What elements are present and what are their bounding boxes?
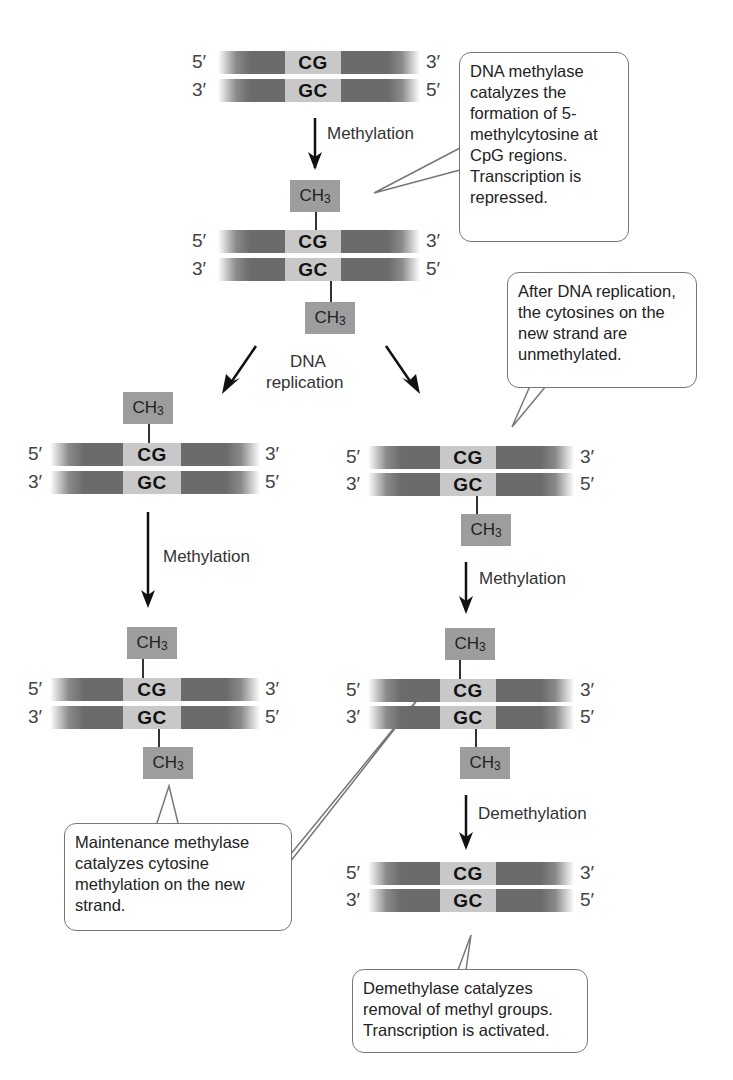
strand-end-label: 3′ [28, 471, 42, 493]
bond-line [158, 729, 160, 748]
callout-after-replication: After DNA replication, the cytosines on … [507, 272, 697, 388]
strand-end-label: 5′ [265, 706, 279, 728]
bond-line [142, 659, 144, 678]
strand-end-label: 5′ [346, 862, 360, 884]
strand-end-label: 5′ [192, 230, 206, 252]
base-pair-gc: GC [440, 706, 496, 729]
strand-end-label: 3′ [265, 443, 279, 465]
strand-end-label: 5′ [28, 443, 42, 465]
strand-end-label: 5′ [580, 473, 594, 495]
strand-end-label: 3′ [426, 230, 440, 252]
strand-end-label: 3′ [426, 51, 440, 73]
methylation-label-right: Methylation [479, 569, 566, 589]
callout-demethylase: Demethylase catalyzes removal of methyl … [352, 969, 588, 1053]
bond-line [459, 660, 461, 679]
strand-end-label: 3′ [28, 706, 42, 728]
base-pair-gc: GC [440, 889, 496, 912]
methyl-group-bottom: CH3 [143, 747, 193, 779]
strand-end-label: 3′ [580, 862, 594, 884]
strand-end-label: 5′ [346, 679, 360, 701]
base-pair-cg: CG [123, 443, 181, 466]
methyl-group-top: CH3 [290, 180, 340, 212]
methyl-group-top: CH3 [123, 392, 173, 424]
base-pair-gc: GC [285, 79, 341, 102]
strand-end-label: 3′ [580, 679, 594, 701]
callout-dna-methylase: DNA methylase catalyzes the formation of… [459, 52, 629, 242]
methyl-group-bottom: CH3 [461, 514, 511, 546]
dna-replication-label-1: DNA [290, 352, 326, 372]
dna-replication-label-2: replication [266, 373, 344, 393]
strand-end-label: 5′ [580, 889, 594, 911]
strand-end-label: 5′ [580, 706, 594, 728]
strand-end-label: 5′ [346, 446, 360, 468]
methyl-group-top: CH3 [445, 628, 495, 660]
bond-line [475, 729, 477, 747]
demethylation-label: Demethylation [478, 804, 587, 824]
base-pair-cg: CG [440, 679, 496, 702]
strand-end-label: 5′ [426, 79, 440, 101]
methyl-group-bottom: CH3 [460, 747, 510, 779]
strand-end-label: 3′ [346, 889, 360, 911]
bond-line [315, 212, 317, 230]
strand-end-label: 3′ [192, 258, 206, 280]
strand-end-label: 5′ [192, 51, 206, 73]
strand-end-label: 3′ [346, 473, 360, 495]
strand-end-label: 3′ [346, 706, 360, 728]
base-pair-cg: CG [285, 230, 341, 253]
callout-maintenance-methylase: Maintenance methylase catalyzes cytosine… [64, 823, 292, 931]
methyl-group-top: CH3 [127, 627, 177, 659]
base-pair-gc: GC [123, 471, 181, 494]
strand-end-label: 5′ [265, 471, 279, 493]
bond-line [148, 424, 150, 443]
base-pair-gc: GC [440, 473, 496, 496]
strand-end-label: 3′ [580, 446, 594, 468]
base-pair-cg: CG [440, 446, 496, 469]
strand-end-label: 3′ [265, 678, 279, 700]
bond-line [476, 496, 478, 514]
methylation-label-left: Methylation [163, 547, 250, 567]
base-pair-gc: GC [123, 706, 181, 729]
bond-line [330, 281, 332, 302]
strand-end-label: 5′ [28, 678, 42, 700]
methyl-group-bottom: CH3 [305, 302, 355, 334]
methylation-label: Methylation [327, 124, 414, 144]
base-pair-gc: GC [285, 258, 341, 281]
base-pair-cg: CG [440, 862, 496, 885]
strand-end-label: 5′ [426, 258, 440, 280]
base-pair-cg: CG [285, 51, 341, 74]
base-pair-cg: CG [123, 678, 181, 701]
strand-end-label: 3′ [192, 79, 206, 101]
